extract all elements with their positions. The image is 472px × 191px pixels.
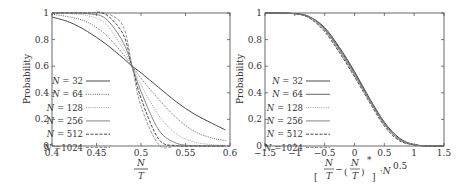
legend-label: N = 128 — [46, 103, 83, 113]
x-tick-label: 0.5 — [377, 148, 392, 158]
x-tick-label: 1.5 — [437, 148, 452, 158]
x-tick-label: 0.55 — [175, 148, 195, 158]
y-tick-label: 0.4 — [35, 88, 50, 98]
frac1-numerator: N — [324, 158, 334, 168]
legend-label: N = 256 — [266, 116, 303, 126]
n-power-exponent: 0.5 — [393, 161, 408, 171]
n-power-base: ·N — [380, 166, 392, 176]
x-tick-label: 1 — [411, 148, 417, 158]
figure: 00.20.40.60.81 0.40.450.50.550.6 Probabi… — [0, 0, 472, 191]
legend-label: N = 64 — [271, 89, 303, 99]
left-paren: ( — [344, 167, 348, 177]
y-tick-label: 0.8 — [248, 35, 263, 45]
y-tick-label: 1 — [43, 8, 49, 18]
legend-label: N = 32 — [51, 76, 83, 86]
curve-n32 — [52, 17, 226, 130]
left-y-axis-label: Probability — [22, 53, 32, 104]
right-chart: 00.20.40.60.81 −1.5−1−0.500.511.5 Probab… — [235, 8, 451, 182]
y-tick-label: 0.2 — [248, 114, 262, 124]
x-tick-label: 0 — [352, 148, 358, 158]
left-bracket: [ — [314, 172, 318, 182]
y-tick-label: 0.4 — [248, 88, 263, 98]
right-paren: ) — [361, 167, 365, 177]
right-x-axis-label: [ N T − ( N T ) * ] ·N 0.5 — [314, 155, 408, 182]
y-tick-label: 0.6 — [248, 61, 263, 71]
right-y-axis-label: Probability — [235, 53, 245, 104]
y-tick-label: 0.6 — [35, 61, 50, 71]
legend-label: N = 64 — [51, 89, 83, 99]
legend-label: N =1024 — [43, 143, 83, 153]
legend-label: N = 512 — [266, 129, 303, 139]
x-tick-label: 0.45 — [86, 148, 106, 158]
left-chart: 00.20.40.60.81 0.40.450.50.550.6 Probabi… — [22, 8, 237, 181]
x-label-numerator: N — [136, 158, 146, 168]
minus-sign: − — [335, 164, 343, 174]
legend-label: N = 32 — [271, 76, 303, 86]
x-tick-label: −0.5 — [314, 148, 336, 158]
legend-label: N = 128 — [266, 103, 303, 113]
star-superscript: * — [367, 155, 372, 165]
y-tick-label: 0.8 — [35, 35, 50, 45]
frac2-denominator: T — [352, 171, 359, 181]
frac1-denominator: T — [326, 171, 333, 181]
right-bracket: ] — [372, 172, 376, 182]
left-x-axis-label: N T — [134, 158, 148, 181]
x-label-denominator: T — [138, 171, 145, 181]
x-tick-label: 0.5 — [134, 148, 149, 158]
legend-label: N = 256 — [46, 116, 83, 126]
legend-label: N =1024 — [263, 143, 303, 153]
y-tick-label: 1 — [256, 8, 262, 18]
legend-label: N = 512 — [46, 129, 83, 139]
frac2-numerator: N — [350, 158, 360, 168]
x-tick-label: 0.6 — [223, 148, 238, 158]
right-legend: N = 32N = 64N = 128N = 256N = 512N =1024 — [263, 76, 330, 153]
left-legend: N = 32N = 64N = 128N = 256N = 512N =1024 — [43, 76, 110, 153]
